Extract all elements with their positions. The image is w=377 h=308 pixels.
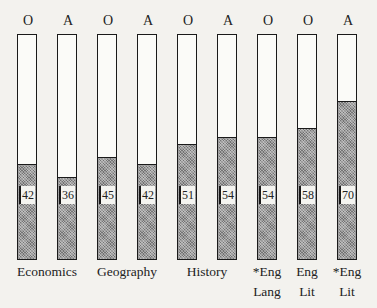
value-label: 45 xyxy=(99,186,115,204)
grade-label: A xyxy=(218,13,238,29)
subject-line: Economics xyxy=(12,262,82,282)
subject-line: Lang xyxy=(250,282,284,302)
subject-label-history: History xyxy=(172,262,242,282)
value-label: 54 xyxy=(219,186,235,204)
subject-line: Eng xyxy=(290,262,324,282)
subject-line: Lit xyxy=(290,282,324,302)
subject-line: Lit xyxy=(330,282,364,302)
bar-eng-lit-a: 70 xyxy=(337,34,357,260)
subject-line: Geography xyxy=(92,262,162,282)
value-label: 54 xyxy=(259,186,275,204)
value-label: 42 xyxy=(19,186,35,204)
subject-line: *Eng xyxy=(330,262,364,282)
bar-fill xyxy=(98,157,116,259)
bar-fill xyxy=(18,164,36,259)
bar-eng-lit-o: 58 xyxy=(297,34,317,260)
bar-economics-a: 36 xyxy=(57,34,77,260)
grade-label: O xyxy=(258,13,278,29)
value-label: 36 xyxy=(59,186,75,204)
bar-chart: O A O A O A O O A 42 36 45 42 51 54 54 5… xyxy=(0,0,377,308)
subject-label-eng-lit: Eng Lit xyxy=(290,262,324,302)
bar-geography-o: 45 xyxy=(97,34,117,260)
subject-line: History xyxy=(172,262,242,282)
bar-history-a: 54 xyxy=(217,34,237,260)
grade-label: A xyxy=(58,13,78,29)
bar-fill xyxy=(138,164,156,259)
bar-eng-lang-o: 54 xyxy=(257,34,277,260)
grade-label: A xyxy=(338,13,358,29)
bar-economics-o: 42 xyxy=(17,34,37,260)
value-label: 58 xyxy=(299,186,315,204)
subject-label-eng-lang: *Eng Lang xyxy=(250,262,284,302)
value-label: 51 xyxy=(179,186,195,204)
value-label: 42 xyxy=(139,186,155,204)
subject-label-geography: Geography xyxy=(92,262,162,282)
subject-line: *Eng xyxy=(250,262,284,282)
grade-label: A xyxy=(138,13,158,29)
bar-history-o: 51 xyxy=(177,34,197,260)
grade-label: O xyxy=(18,13,38,29)
grade-label: O xyxy=(178,13,198,29)
subject-label-eng-lit-a: *Eng Lit xyxy=(330,262,364,302)
subject-label-economics: Economics xyxy=(12,262,82,282)
value-label: 70 xyxy=(339,186,355,204)
grade-label: O xyxy=(298,13,318,29)
bar-fill xyxy=(338,101,356,259)
bar-geography-a: 42 xyxy=(137,34,157,260)
grade-label: O xyxy=(98,13,118,29)
